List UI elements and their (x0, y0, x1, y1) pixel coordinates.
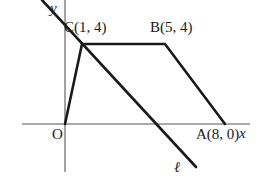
coordinate-plane-svg (0, 0, 268, 184)
x-axis-label: x (239, 126, 246, 141)
geometry-figure: C(1, 4) B(5, 4) A(8, 0) O x y ℓ (0, 0, 268, 184)
point-label-c: C(1, 4) (64, 20, 107, 35)
origin-label: O (52, 127, 63, 142)
line-ell-label: ℓ (174, 160, 180, 175)
y-axis-label: y (50, 1, 57, 16)
point-label-b: B(5, 4) (150, 20, 193, 35)
point-label-a: A(8, 0) (196, 127, 239, 142)
